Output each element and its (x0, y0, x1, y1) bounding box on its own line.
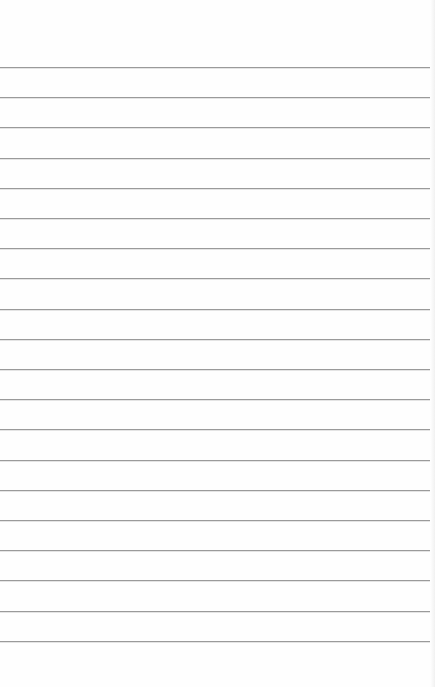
ruled-line (0, 611, 430, 612)
paper-right-edge (430, 0, 435, 687)
ruled-line (0, 460, 430, 461)
ruled-line (0, 188, 430, 189)
ruled-line (0, 550, 430, 551)
ruled-line (0, 67, 430, 68)
ruled-line (0, 97, 430, 98)
ruled-line (0, 309, 430, 310)
ruled-line (0, 127, 430, 128)
ruled-line (0, 339, 430, 340)
ruled-line (0, 641, 430, 642)
ruled-line (0, 490, 430, 491)
lined-paper (0, 0, 435, 687)
ruled-line (0, 520, 430, 521)
ruled-line (0, 278, 430, 279)
ruled-line (0, 399, 430, 400)
ruled-line (0, 429, 430, 430)
ruled-line (0, 218, 430, 219)
ruled-line (0, 248, 430, 249)
ruled-line (0, 580, 430, 581)
ruled-line (0, 158, 430, 159)
ruled-line (0, 369, 430, 370)
